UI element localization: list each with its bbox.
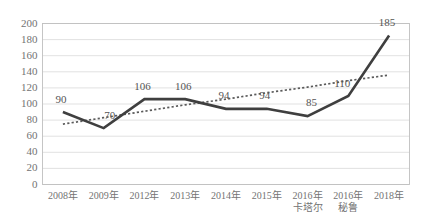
data-point-label: 94 (259, 89, 271, 101)
y-axis-tick-label: 40 (27, 145, 39, 157)
line-chart: 200180160140120100806040200 907010610694… (0, 0, 421, 220)
y-axis-tick-label: 0 (32, 178, 38, 190)
x-axis-tick-label: 2015年 (252, 189, 282, 201)
x-axis-tick-label-line2: 卡塔尔 (293, 201, 323, 213)
y-axis-tick-label: 140 (21, 65, 38, 77)
y-axis-tick-label: 120 (21, 81, 38, 93)
chart-background (0, 0, 421, 220)
data-point-label: 85 (306, 96, 318, 108)
y-axis-tick-label: 100 (21, 97, 38, 109)
data-point-label: 185 (379, 16, 396, 28)
data-point-label: 70 (104, 109, 116, 121)
data-point-label: 94 (219, 89, 231, 101)
y-axis-tick-label: 200 (21, 17, 38, 29)
x-axis-tick-label: 2013年 (170, 189, 200, 201)
data-point-label: 106 (175, 80, 192, 92)
data-point-label: 90 (55, 93, 67, 105)
y-axis-tick-label: 60 (27, 129, 39, 141)
x-axis-tick-label: 2014年 (211, 189, 241, 201)
data-point-label: 110 (334, 77, 351, 89)
data-point-label: 106 (134, 80, 151, 92)
x-axis-tick-label: 2018年 (374, 189, 404, 201)
x-axis-tick-label: 2008年 (48, 189, 78, 201)
x-axis-tick-label: 2016年 (333, 189, 363, 201)
y-axis-tick-label: 20 (27, 161, 39, 173)
x-axis-tick-label: 2009年 (89, 189, 119, 201)
y-axis-tick-label: 160 (21, 49, 38, 61)
x-axis-tick-label: 2016年 (293, 189, 323, 201)
y-axis-tick-label: 80 (27, 113, 39, 125)
chart-container: 200180160140120100806040200 907010610694… (0, 0, 421, 220)
x-axis-tick-label-line2: 秘鲁 (338, 201, 358, 213)
x-axis-tick-label: 2012年 (129, 189, 159, 201)
y-axis-tick-label: 180 (21, 33, 38, 45)
